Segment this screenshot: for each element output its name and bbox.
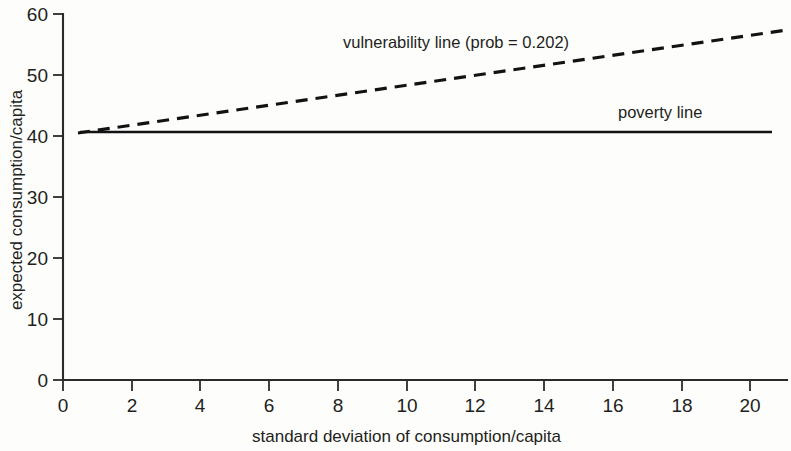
poverty-line-label: poverty line xyxy=(618,103,702,121)
x-axis-ticks xyxy=(63,380,750,391)
x-tick-label: 0 xyxy=(58,395,69,416)
y-axis-tick-labels: 60 50 40 30 20 10 0 xyxy=(27,4,48,391)
chart-plot-area: 60 50 40 30 20 10 0 0 2 4 6 xyxy=(0,0,791,451)
x-tick-label: 10 xyxy=(396,395,417,416)
x-tick-label: 8 xyxy=(333,395,344,416)
x-tick-label: 2 xyxy=(127,395,138,416)
x-tick-label: 4 xyxy=(195,395,206,416)
y-tick-label: 20 xyxy=(27,248,48,269)
x-tick-label: 20 xyxy=(739,395,760,416)
chart-figure: 60 50 40 30 20 10 0 0 2 4 6 xyxy=(0,0,791,451)
y-tick-label: 40 xyxy=(27,126,48,147)
y-tick-label: 10 xyxy=(27,309,48,330)
y-axis-ticks xyxy=(53,14,63,380)
x-tick-label: 14 xyxy=(533,395,555,416)
y-tick-label: 50 xyxy=(27,65,48,86)
x-tick-label: 16 xyxy=(602,395,623,416)
vulnerability-line-label: vulnerability line (prob = 0.202) xyxy=(343,33,569,51)
x-axis-tick-labels: 0 2 4 6 8 10 12 14 16 18 20 xyxy=(58,395,761,416)
x-axis-title: standard deviation of consumption/capita xyxy=(252,427,562,446)
y-tick-label: 0 xyxy=(37,370,48,391)
y-axis-title: expected consumption/capita xyxy=(7,89,26,310)
x-tick-label: 12 xyxy=(464,395,485,416)
x-tick-label: 6 xyxy=(264,395,275,416)
y-tick-label: 60 xyxy=(27,4,48,25)
y-tick-label: 30 xyxy=(27,187,48,208)
x-tick-label: 18 xyxy=(671,395,692,416)
